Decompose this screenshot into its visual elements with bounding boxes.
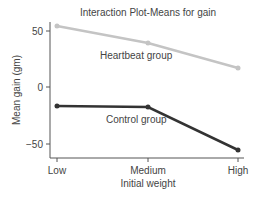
control-line: [57, 106, 238, 150]
x-tick-label: High: [228, 165, 249, 176]
x-tick-label: Medium: [130, 165, 166, 176]
data-point: [146, 105, 151, 110]
data-point: [55, 24, 60, 29]
y-axis-label: Mean gain (gm): [11, 55, 22, 125]
series-label-control: Control group: [106, 114, 167, 125]
chart-title: Interaction Plot-Means for gain: [80, 7, 216, 18]
data-point: [236, 148, 241, 153]
y-tick-label: 50: [32, 26, 44, 37]
y-tick-label: −50: [26, 139, 43, 150]
y-tick-label: 0: [37, 82, 43, 93]
data-point: [146, 41, 151, 46]
heartbeat-line: [57, 26, 238, 68]
series-control: Control group: [55, 104, 241, 153]
interaction-plot: Interaction Plot-Means for gain 50 0 −50…: [0, 0, 259, 199]
data-point: [236, 66, 241, 71]
series-label-heartbeat: Heartbeat group: [100, 50, 173, 61]
x-axis-label: Initial weight: [120, 178, 175, 189]
series-heartbeat: Heartbeat group: [55, 24, 241, 71]
data-point: [55, 104, 60, 109]
x-tick-label: Low: [48, 165, 67, 176]
